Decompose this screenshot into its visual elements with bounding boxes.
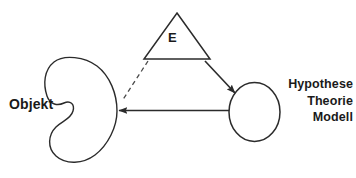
connector-triangle-to-circle-arrow xyxy=(205,61,235,93)
connector-triangle-to-object-dashed xyxy=(122,61,148,101)
diagram-canvas: Objekt E Hypothese Theorie Modell xyxy=(0,0,356,178)
triangle-shape xyxy=(144,13,210,59)
circle-label-line-modell: Modell xyxy=(288,109,353,126)
triangle-label-e: E xyxy=(168,31,177,46)
circle-shape xyxy=(229,83,280,142)
circle-label-line-hypothese: Hypothese xyxy=(288,76,353,93)
object-label: Objekt xyxy=(9,97,53,113)
circle-label-block: Hypothese Theorie Modell xyxy=(288,76,353,126)
object-blob-shape xyxy=(45,57,117,162)
circle-label-line-theorie: Theorie xyxy=(288,93,353,110)
